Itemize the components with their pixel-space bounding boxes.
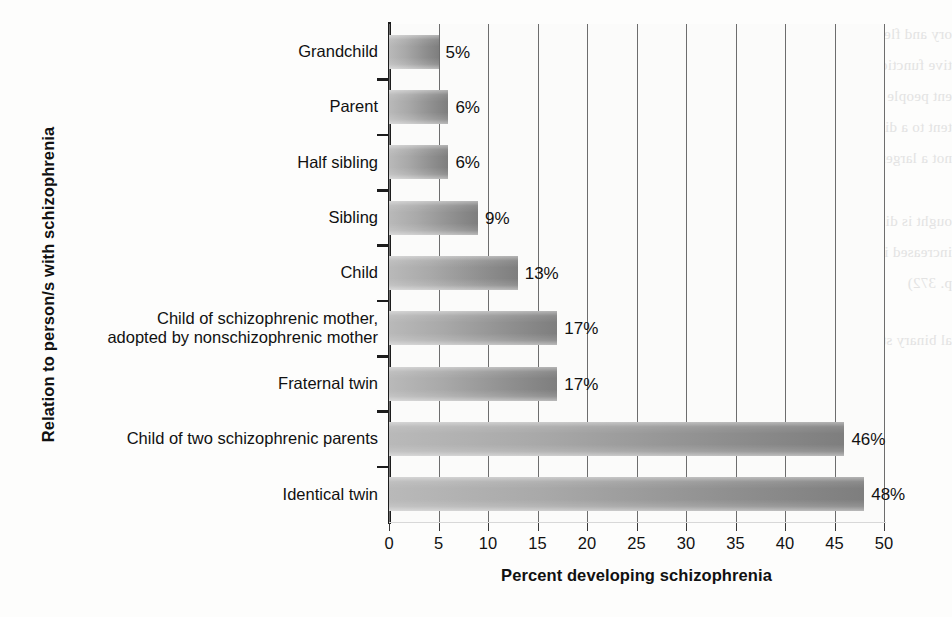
chart-figure: ory and flexural impairments on tive fun… — [0, 0, 952, 617]
x-axis-tick-mark — [439, 522, 440, 531]
y-axis-tick-mark — [377, 300, 389, 303]
y-axis-tick-mark — [377, 244, 389, 247]
y-axis-tick-mark — [377, 78, 389, 81]
bar — [389, 256, 518, 290]
category-label: Identical twin — [283, 485, 386, 504]
bar — [389, 201, 478, 235]
x-axis-tick-mark — [587, 522, 588, 531]
bar-value-label: 6% — [455, 99, 480, 116]
x-axis-tick-label: 30 — [677, 534, 695, 553]
y-axis-tick-mark — [377, 189, 389, 192]
y-axis-title: Relation to person/s with schizophrenia — [39, 50, 58, 520]
category-label: Child of two schizophrenic parents — [127, 429, 386, 448]
bar — [389, 90, 448, 124]
x-axis-tick-label: 35 — [726, 534, 744, 553]
category-label: Half sibling — [297, 153, 386, 172]
bar-value-label: 6% — [455, 154, 480, 171]
x-axis-tick-label: 50 — [875, 534, 893, 553]
bar-value-label: 13% — [525, 265, 559, 282]
bar-value-label: 17% — [564, 376, 598, 393]
x-axis-tick-mark — [785, 522, 786, 531]
category-label: Sibling — [328, 208, 386, 227]
x-axis-tick-label: 10 — [479, 534, 497, 553]
bar-value-label: 48% — [871, 486, 905, 503]
category-label: Parent — [329, 97, 386, 116]
plot-area: 5%6%6%9%13%17%17%46%48% — [389, 24, 884, 522]
y-axis-category-labels: GrandchildParentHalf siblingSiblingChild… — [56, 24, 386, 522]
x-axis-title: Percent developing schizophrenia — [389, 566, 884, 585]
bar — [389, 367, 557, 401]
category-label-row: Grandchild — [56, 24, 386, 79]
category-label: Child of schizophrenic mother, adopted b… — [107, 309, 386, 348]
category-label: Grandchild — [298, 42, 386, 61]
y-axis-tick-mark — [377, 355, 389, 358]
x-axis-tick-label: 15 — [528, 534, 546, 553]
x-axis-tick-mark — [835, 522, 836, 531]
bar — [389, 311, 557, 345]
category-label-row: Fraternal twin — [56, 356, 386, 411]
x-axis-tick-label: 40 — [776, 534, 794, 553]
bar-value-label: 9% — [485, 210, 510, 227]
x-axis-tick-mark — [538, 522, 539, 531]
x-axis-tick-label: 45 — [825, 534, 843, 553]
category-label-row: Parent — [56, 79, 386, 134]
bar-value-label: 46% — [851, 431, 885, 448]
x-axis-tick-label: 25 — [627, 534, 645, 553]
category-label-row: Identical twin — [56, 467, 386, 522]
y-axis-tick-mark — [377, 410, 389, 413]
category-label-row: Child — [56, 245, 386, 300]
x-axis-tick-mark — [884, 522, 885, 531]
x-axis-tick-mark — [736, 522, 737, 531]
x-axis-tick-mark — [389, 522, 390, 531]
x-axis-line — [389, 522, 886, 523]
category-label: Fraternal twin — [278, 374, 386, 393]
category-label-row: Half sibling — [56, 135, 386, 190]
bar-value-label: 17% — [564, 320, 598, 337]
category-label: Child — [340, 263, 386, 282]
bar-value-label: 5% — [446, 44, 471, 61]
x-axis-tick-mark — [686, 522, 687, 531]
bar — [389, 145, 448, 179]
x-axis-tick-label: 5 — [434, 534, 443, 553]
category-label-row: Child of two schizophrenic parents — [56, 411, 386, 466]
y-axis-tick-mark — [377, 134, 389, 137]
category-label-row: Child of schizophrenic mother, adopted b… — [56, 301, 386, 356]
bar — [389, 477, 864, 511]
bar — [389, 35, 439, 69]
y-axis-tick-mark — [377, 466, 389, 469]
x-axis-tick-label: 20 — [578, 534, 596, 553]
category-label-row: Sibling — [56, 190, 386, 245]
bar — [389, 422, 844, 456]
x-axis-tick-label: 0 — [384, 534, 393, 553]
x-axis-tick-mark — [488, 522, 489, 531]
x-axis-tick-mark — [637, 522, 638, 531]
